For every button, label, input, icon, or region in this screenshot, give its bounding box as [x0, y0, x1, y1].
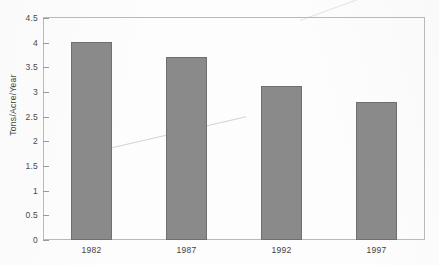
y-tick-label: 4.5: [26, 13, 38, 23]
y-tick-label: 0: [33, 235, 38, 245]
y-tick-label: 2.5: [26, 112, 38, 122]
y-tick-label: 3: [33, 87, 38, 97]
y-tick-label: 2: [33, 136, 38, 146]
y-tick-label: 1: [33, 186, 38, 196]
bar-1992: [261, 86, 302, 240]
y-tick-label: 1.5: [26, 161, 38, 171]
chart-screenshot: Tons/Acre/Year 00.511.522.533.544.5 1982…: [0, 0, 439, 265]
y-tick-label: 0.5: [26, 210, 38, 220]
x-axis-label-1987: 1987: [176, 245, 196, 255]
y-axis-title: Tons/Acre/Year: [8, 45, 18, 165]
bar-series: [44, 18, 424, 240]
bar-1997: [356, 102, 397, 240]
x-axis-label-1997: 1997: [366, 245, 386, 255]
x-axis-label-1992: 1992: [271, 245, 291, 255]
bar-1982: [71, 42, 112, 240]
y-tick-mark: [43, 240, 49, 241]
x-axis-label-1982: 1982: [81, 245, 101, 255]
bar-1987: [166, 57, 207, 240]
y-tick-label: 4: [33, 38, 38, 48]
y-tick-label: 3.5: [26, 62, 38, 72]
